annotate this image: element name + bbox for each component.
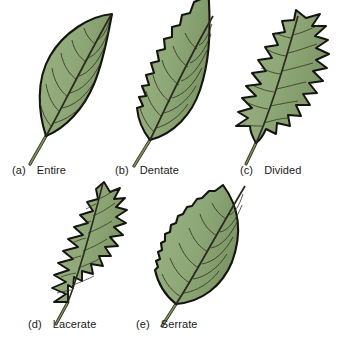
caption-lacerate: (d)Lacerate <box>28 318 96 330</box>
petiole-highlight <box>246 143 256 164</box>
caption-tag: (b) <box>115 164 129 176</box>
serrate-leaf-svg <box>140 180 262 328</box>
leaf-blade <box>155 185 238 304</box>
caption-name: Dentate <box>140 164 179 176</box>
caption-tag: (a) <box>12 164 26 176</box>
caption-name: Divided <box>264 164 301 176</box>
caption-serrate: (e)Serrate <box>136 318 198 330</box>
leaf-blade <box>137 0 210 140</box>
caption-name: Lacerate <box>53 318 97 330</box>
caption-tag: (c) <box>240 164 253 176</box>
leaf-diagram-serrate <box>140 180 262 328</box>
leaf-blade <box>236 10 329 143</box>
leaf-diagram-divided <box>228 8 344 170</box>
petiole-highlight <box>134 140 150 166</box>
caption-divided: (c)Divided <box>240 164 302 176</box>
caption-name: Serrate <box>161 318 198 330</box>
leaf-blade <box>52 182 127 302</box>
leaf-diagram-dentate <box>112 8 234 170</box>
caption-name: Entire <box>37 164 66 176</box>
caption-tag: (e) <box>136 318 150 330</box>
caption-dentate: (b)Dentate <box>115 164 179 176</box>
leaf-margin-figure: (a)Entire <box>0 0 347 353</box>
divided-leaf-svg <box>228 8 344 170</box>
petiole-highlight <box>30 136 46 164</box>
dentate-leaf-svg <box>112 8 234 170</box>
caption-entire: (a)Entire <box>12 164 66 176</box>
caption-tag: (d) <box>28 318 42 330</box>
